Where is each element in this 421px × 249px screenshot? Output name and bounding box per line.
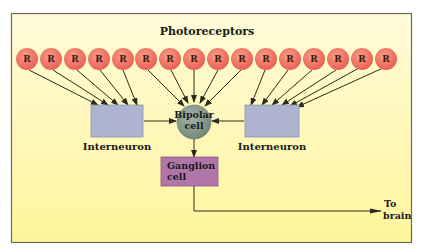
photoreceptor-r: R [207,48,229,70]
svg-text:R: R [95,54,103,64]
svg-text:R: R [310,54,318,64]
right-interneuron-box [245,105,299,137]
photoreceptor-r: R [112,48,134,70]
photoreceptor-r: R [255,48,277,70]
bipolar-cell-label-line2: cell [184,120,203,131]
photoreceptor-r: R [135,48,157,70]
svg-text:R: R [190,54,198,64]
photoreceptor-r: R [159,48,181,70]
right-interneuron-label: Interneuron [238,141,307,152]
diagram-frame [12,14,412,243]
photoreceptor-r: R [231,48,253,70]
svg-text:R: R [334,54,342,64]
svg-text:R: R [71,54,79,64]
retina-circuit-diagram: Photoreceptors R R R R R R R R R R R R [0,0,421,249]
to-brain-label-line1: To [384,198,396,209]
bipolar-cell-label-line1: Bipolar [174,109,214,120]
photoreceptor-r: R [64,48,86,70]
svg-text:R: R [47,54,55,64]
photoreceptor-r: R [375,48,397,70]
svg-text:R: R [286,54,294,64]
ganglion-cell-label-line1: Ganglion [167,160,215,171]
svg-text:R: R [238,54,246,64]
title-photoreceptors: Photoreceptors [160,25,255,38]
photoreceptor-r: R [16,48,38,70]
svg-text:R: R [119,54,127,64]
photoreceptor-r: R [327,48,349,70]
photoreceptor-r: R [303,48,325,70]
photoreceptor-r: R [88,48,110,70]
svg-text:R: R [214,54,222,64]
left-interneuron-label: Interneuron [83,141,152,152]
to-brain-label-line2: brain [383,210,411,221]
svg-text:R: R [382,54,390,64]
photoreceptor-r: R [40,48,62,70]
photoreceptor-r: R [183,48,205,70]
svg-text:R: R [358,54,366,64]
svg-text:R: R [23,54,31,64]
photoreceptor-r: R [279,48,301,70]
left-interneuron-box [91,105,143,137]
photoreceptor-r: R [351,48,373,70]
svg-text:R: R [262,54,270,64]
svg-text:R: R [166,54,174,64]
svg-text:R: R [142,54,150,64]
ganglion-cell-label-line2: cell [167,171,186,182]
